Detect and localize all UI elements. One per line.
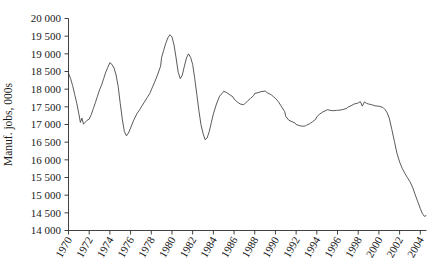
y-tick-label: 19 000: [31, 48, 62, 60]
x-axis-ticks: 1970197219741976197819801982198419861988…: [53, 231, 426, 260]
x-tick-label: 1972: [74, 235, 95, 260]
y-axis-label: Manuf. jobs, 000s: [2, 82, 15, 166]
x-tick-label: 1982: [177, 235, 198, 260]
y-tick-label: 17 000: [31, 118, 62, 130]
y-tick-label: 20 000: [31, 12, 62, 24]
x-tick-label: 1990: [260, 234, 282, 259]
y-tick-label: 16 500: [31, 136, 62, 148]
y-tick-label: 17 500: [31, 101, 62, 113]
x-tick-label: 1992: [280, 235, 301, 260]
x-tick-label: 2004: [405, 234, 427, 259]
x-tick-label: 1988: [239, 234, 261, 259]
y-tick-label: 18 500: [31, 65, 62, 77]
x-tick-label: 1986: [218, 234, 240, 259]
series-line-0: [69, 35, 426, 217]
chart-figure: Manuf. jobs, 000s 20 00019 50019 00018 5…: [0, 0, 438, 278]
x-tick-label: 1980: [156, 234, 178, 259]
y-tick-label: 15 500: [31, 171, 62, 183]
x-tick-label: 2002: [384, 235, 405, 260]
x-tick-label: 2000: [363, 234, 385, 259]
y-tick-label: 15 000: [31, 189, 62, 201]
x-tick-label: 1996: [322, 234, 344, 259]
y-axis-title: Manuf. jobs, 000s: [2, 82, 15, 166]
x-tick-label: 1978: [136, 234, 158, 259]
x-tick-label: 1998: [343, 234, 365, 259]
data-series: [69, 35, 426, 217]
x-tick-label: 1974: [94, 234, 116, 259]
y-tick-label: 18 000: [31, 83, 62, 95]
axis-lines: [69, 19, 427, 231]
x-tick-label: 1994: [301, 234, 323, 259]
line-chart: Manuf. jobs, 000s 20 00019 50019 00018 5…: [0, 0, 438, 278]
axis-spines: [69, 19, 427, 231]
x-tick-label: 1970: [53, 234, 75, 259]
x-tick-label: 1976: [115, 234, 137, 259]
y-tick-label: 16 000: [31, 154, 62, 166]
x-tick-label: 1984: [198, 234, 220, 259]
y-tick-label: 19 500: [31, 30, 62, 42]
y-tick-label: 14 500: [31, 207, 62, 219]
y-tick-label: 14 000: [31, 224, 62, 236]
y-axis-ticks: 20 00019 50019 00018 50018 00017 50017 0…: [31, 12, 69, 236]
